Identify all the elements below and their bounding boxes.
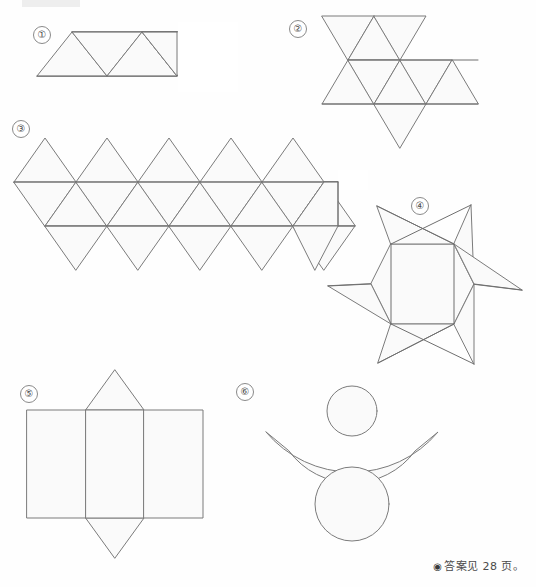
- prism-top-triangle: [86, 370, 144, 410]
- figure-5-prism-net: [18, 368, 218, 558]
- top-gray-band: [22, 0, 80, 7]
- t3-bot-1: [45, 226, 107, 270]
- figure-label-2: ②: [289, 20, 307, 38]
- prism-panel-left: [27, 410, 86, 518]
- star-center-hexagon: [371, 244, 474, 324]
- prism-panel-right: [144, 410, 203, 518]
- t3-bot-4: [231, 226, 293, 270]
- t3-top-5: [262, 138, 324, 182]
- small-circle-top: [327, 386, 377, 436]
- worksheet-page: ① ② ③: [0, 0, 536, 587]
- answer-reference-text: 答案见 28 页。: [444, 560, 524, 573]
- t3-top-1: [14, 138, 76, 182]
- t3-bot-2: [107, 226, 169, 270]
- prism-bottom-triangle: [86, 518, 144, 558]
- figure-2-octahedron-net: [310, 12, 515, 137]
- prism-panel-middle: [86, 410, 144, 518]
- t3-clip-mask: [338, 170, 368, 190]
- t3-top-3: [138, 138, 200, 182]
- answer-reference-note: ◉答案见 28 页。: [433, 557, 524, 573]
- figure-3-icosahedron-net: [14, 130, 344, 270]
- figure-4-six-point-star-net: [326, 200, 526, 368]
- t2-bottom-up: [374, 104, 426, 148]
- figure-1-tetrahedron-net: [30, 28, 190, 88]
- t3-top-4: [200, 138, 262, 182]
- large-circle-bottom: [315, 467, 389, 541]
- bullet-icon: ◉: [433, 561, 442, 572]
- clip-mask-right: [178, 22, 238, 92]
- figure-6-cone-frustum-net: [252, 388, 452, 548]
- t3-top-2: [76, 138, 138, 182]
- t3-bot-3: [169, 226, 231, 270]
